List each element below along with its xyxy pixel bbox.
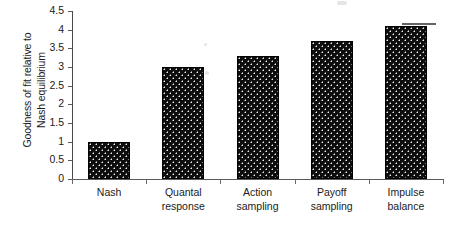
- x-tick: [369, 179, 370, 184]
- scan-artifact: [337, 1, 347, 5]
- x-tick: [443, 179, 444, 184]
- bar: [311, 41, 353, 179]
- y-tick-label: 4: [58, 23, 64, 36]
- y-tick-label: 1: [58, 135, 64, 148]
- x-axis-label-line: Impulse: [369, 186, 443, 200]
- y-tick-label: 3.5: [49, 41, 64, 54]
- x-axis-label-line: Payoff: [295, 186, 369, 200]
- bar: [88, 142, 130, 179]
- x-tick: [295, 179, 296, 184]
- x-axis-label-line: Nash: [72, 186, 146, 200]
- x-axis-label: Impulsebalance: [369, 186, 443, 213]
- y-tick-label: 2.5: [49, 79, 64, 92]
- y-tick: 0: [0, 179, 72, 180]
- x-axis-line: [72, 179, 443, 180]
- y-tick: 2.5: [0, 86, 72, 87]
- bar: [385, 26, 427, 179]
- y-tick: 1: [0, 142, 72, 143]
- x-axis-label-line: Action: [220, 186, 294, 200]
- y-tick: 3.5: [0, 48, 72, 49]
- x-axis-label: Actionsampling: [220, 186, 294, 213]
- y-tick-label: 1.5: [49, 116, 64, 129]
- y-tick: 0.5: [0, 160, 72, 161]
- y-axis-title-line-2: Nash equilibrium: [34, 0, 48, 180]
- bar: [162, 67, 204, 179]
- y-tick: 4: [0, 30, 72, 31]
- y-tick: 4.5: [0, 11, 72, 12]
- y-tick: 2: [0, 104, 72, 105]
- scan-artifact: [204, 43, 207, 46]
- y-tick: 1.5: [0, 123, 72, 124]
- x-tick: [146, 179, 147, 184]
- bar-chart: Goodness of fit relative to Nash equilib…: [0, 0, 449, 225]
- x-axis-label: Payoffsampling: [295, 186, 369, 213]
- y-tick-label: 3: [58, 60, 64, 73]
- y-tick: 3: [0, 67, 72, 68]
- scan-artifact: [205, 71, 209, 75]
- x-axis-label-line: response: [146, 200, 220, 214]
- x-axis-label-line: sampling: [295, 200, 369, 214]
- x-axis-label: Nash: [72, 186, 146, 200]
- x-axis-label: Quantalresponse: [146, 186, 220, 213]
- y-tick-label: 4.5: [49, 4, 64, 17]
- y-tick-label: 0: [58, 172, 64, 185]
- y-tick-label: 0.5: [49, 153, 64, 166]
- x-axis-label-line: balance: [369, 200, 443, 214]
- plot-area: [72, 11, 443, 179]
- scan-artifact: [402, 23, 436, 25]
- x-tick: [220, 179, 221, 184]
- x-tick: [72, 179, 73, 184]
- y-axis-title-line-1: Goodness of fit relative to: [20, 0, 34, 180]
- y-tick-label: 2: [58, 97, 64, 110]
- x-axis-label-line: sampling: [220, 200, 294, 214]
- x-axis-label-line: Quantal: [146, 186, 220, 200]
- bar: [237, 56, 279, 179]
